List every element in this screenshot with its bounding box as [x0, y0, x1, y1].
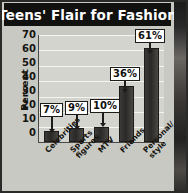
- callout-arrow-icon: [147, 50, 153, 54]
- y-tick-label: 10: [12, 115, 36, 123]
- chart-panel: Percent 70 60 50 40 30 20 10 0: [4, 27, 171, 189]
- callout-arrow-icon: [49, 129, 55, 133]
- data-label-celebrities: 7%: [40, 103, 63, 117]
- callout-arrow-icon: [122, 89, 128, 93]
- data-label-sports-figures: 9%: [65, 101, 88, 115]
- x-axis-tick-labels: Celebrities Sportsfigures MTV Friends Pe…: [38, 145, 164, 189]
- y-tick-label: 50: [12, 59, 36, 67]
- data-label-personal-style: 61%: [135, 29, 165, 43]
- y-tick-label: 40: [12, 73, 36, 81]
- chart-title-banner: Teens' Flair for Fashion: [4, 3, 171, 26]
- y-tick-label: 30: [12, 87, 36, 95]
- bar-personal-style: [144, 48, 159, 142]
- y-tick-label: 60: [12, 45, 36, 53]
- chart-figure: Teens' Flair for Fashion Percent 70 60 5…: [0, 0, 188, 193]
- data-label-friends: 36%: [110, 67, 140, 81]
- callout-arrow-icon: [74, 126, 80, 130]
- y-tick-label: 20: [12, 101, 36, 109]
- data-label-mtv: 10%: [90, 99, 120, 113]
- page-title: Teens' Flair for Fashion: [0, 7, 177, 23]
- y-axis-tick-labels: 70 60 50 40 30 20 10 0: [12, 31, 36, 143]
- y-tick-label: 70: [12, 31, 36, 39]
- callout-arrow-icon: [100, 123, 106, 127]
- y-tick-label: 0: [12, 129, 36, 137]
- adjacent-photo-strip: [174, 0, 188, 193]
